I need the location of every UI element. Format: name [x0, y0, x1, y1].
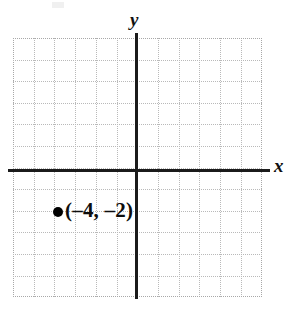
y-axis-label: y	[130, 10, 138, 29]
y-axis-line	[135, 33, 138, 299]
plotted-point-marker	[53, 207, 63, 217]
plotted-point-label: (–4, –2)	[65, 200, 133, 221]
x-axis-line	[8, 169, 270, 172]
coordinate-plane-figure: y x (–4, –2)	[0, 0, 294, 312]
x-axis-label: x	[274, 156, 284, 175]
scan-artifact	[52, 2, 64, 8]
